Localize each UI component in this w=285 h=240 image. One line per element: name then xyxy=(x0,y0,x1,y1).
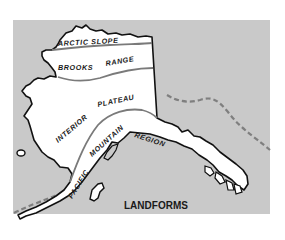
alaska-landforms-map: ARCTIC SLOPE BROOKS RANGE INTERIOR PLATE… xyxy=(0,0,285,240)
map-title: LANDFORMS xyxy=(124,200,188,211)
label-brooks: BROOKS xyxy=(58,63,93,72)
kodiak-island xyxy=(90,183,104,201)
island xyxy=(17,150,25,156)
